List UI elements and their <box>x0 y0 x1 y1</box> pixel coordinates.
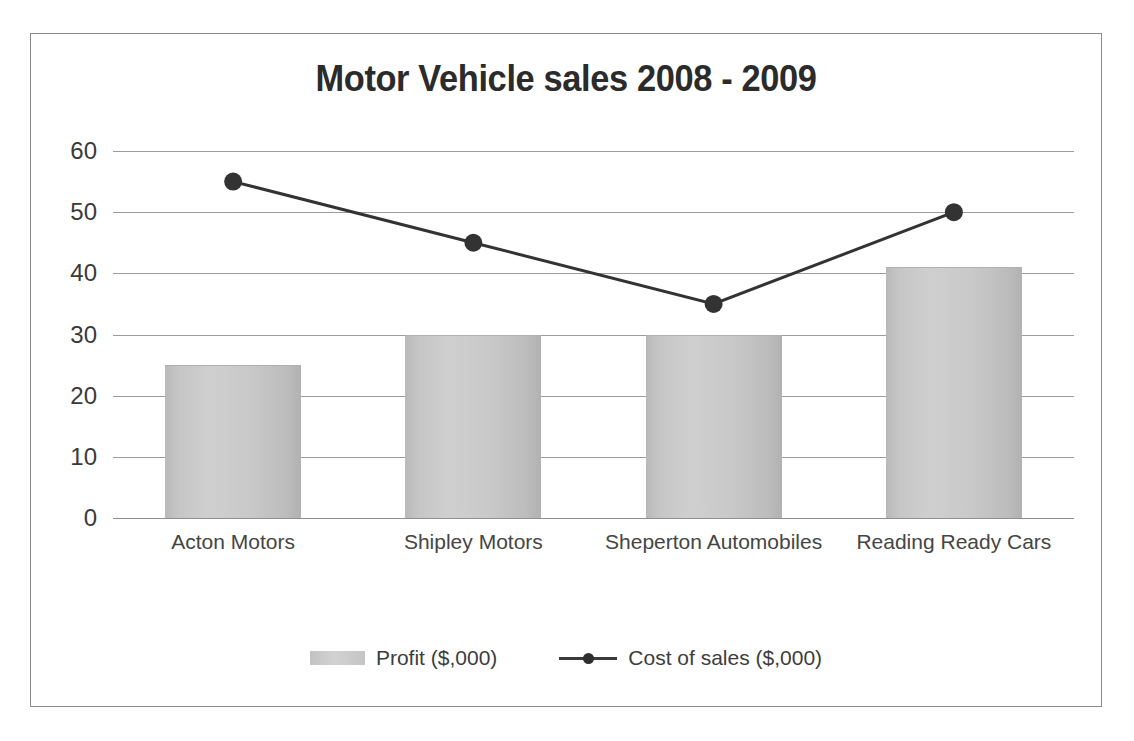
x-axis-labels: Acton MotorsShipley MotorsSheperton Auto… <box>113 528 1074 555</box>
legend-item-cost-of-sales: Cost of sales ($,000) <box>559 646 822 670</box>
gridline-0: 0 <box>113 518 1074 519</box>
line-with-dot-icon <box>559 651 617 665</box>
line-marker-1 <box>224 173 242 191</box>
line-path <box>233 182 954 304</box>
y-axis-tick-50: 50 <box>70 198 97 226</box>
y-axis-tick-60: 60 <box>70 137 97 165</box>
y-axis-tick-20: 20 <box>70 382 97 410</box>
line-series-cost-of-sales <box>113 151 1074 518</box>
bar-swatch-icon <box>310 651 365 665</box>
chart-frame: Motor Vehicle sales 2008 - 2009 60504030… <box>30 33 1102 707</box>
legend-line-marker <box>583 653 594 664</box>
chart-legend: Profit ($,000) Cost of sales ($,000) <box>31 646 1101 670</box>
x-axis-label-3: Sheperton Automobiles <box>594 528 834 555</box>
y-axis-tick-40: 40 <box>70 259 97 287</box>
line-marker-3 <box>705 295 723 313</box>
line-marker-4 <box>945 203 963 221</box>
x-axis-label-1: Acton Motors <box>113 528 353 555</box>
line-marker-2 <box>464 234 482 252</box>
legend-label-profit: Profit ($,000) <box>376 646 497 670</box>
chart-title: Motor Vehicle sales 2008 - 2009 <box>68 58 1063 100</box>
legend-item-profit: Profit ($,000) <box>310 646 497 670</box>
plot-area: 6050403020100 <box>113 151 1074 518</box>
y-axis-tick-10: 10 <box>70 443 97 471</box>
x-axis-label-4: Reading Ready Cars <box>834 528 1074 555</box>
y-axis-tick-0: 0 <box>84 504 97 532</box>
x-axis-label-2: Shipley Motors <box>353 528 593 555</box>
y-axis-tick-30: 30 <box>70 321 97 349</box>
legend-label-cost-of-sales: Cost of sales ($,000) <box>628 646 822 670</box>
